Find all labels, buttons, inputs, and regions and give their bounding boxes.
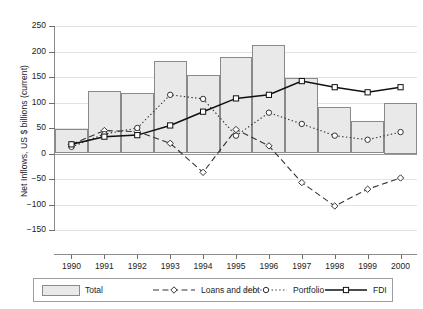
series-marker bbox=[266, 110, 271, 115]
series-marker bbox=[365, 137, 370, 142]
series-marker bbox=[233, 133, 238, 138]
series-marker bbox=[167, 92, 172, 97]
legend-swatch-total bbox=[42, 285, 80, 296]
series-marker bbox=[135, 133, 140, 138]
series-marker bbox=[299, 78, 304, 83]
series-line bbox=[72, 130, 401, 207]
series-marker bbox=[397, 175, 403, 181]
legend-line-fdi bbox=[324, 285, 368, 295]
series-marker bbox=[266, 92, 271, 97]
series-marker bbox=[168, 123, 173, 128]
legend-label: Total bbox=[85, 285, 103, 295]
series-marker bbox=[398, 129, 403, 134]
line-series-layer bbox=[0, 0, 423, 309]
series-marker bbox=[200, 109, 205, 114]
series-marker bbox=[365, 90, 370, 95]
series-marker bbox=[233, 96, 238, 101]
series-marker bbox=[69, 142, 74, 147]
series-marker bbox=[299, 121, 304, 126]
legend-item[interactable]: Portfolio bbox=[244, 279, 324, 301]
chart-legend: TotalLoans and debtPortfolioFDI bbox=[33, 278, 393, 302]
series-line bbox=[72, 95, 401, 147]
series-marker bbox=[233, 126, 239, 132]
series-marker bbox=[398, 85, 403, 90]
chart-figure: Net Inflows, US $ billions (current) 250… bbox=[0, 0, 423, 309]
series-marker bbox=[200, 96, 205, 101]
series-marker bbox=[102, 134, 107, 139]
series-marker bbox=[364, 186, 370, 192]
legend-label: Portfolio bbox=[293, 285, 324, 295]
legend-item[interactable]: Total bbox=[42, 279, 103, 301]
series-marker bbox=[332, 133, 337, 138]
legend-label: FDI bbox=[373, 285, 387, 295]
series-marker bbox=[332, 85, 337, 90]
series-marker bbox=[135, 125, 140, 130]
legend-line-portfolio bbox=[244, 285, 288, 295]
legend-line-loans-and-debt bbox=[152, 285, 196, 295]
legend-item[interactable]: FDI bbox=[324, 279, 387, 301]
